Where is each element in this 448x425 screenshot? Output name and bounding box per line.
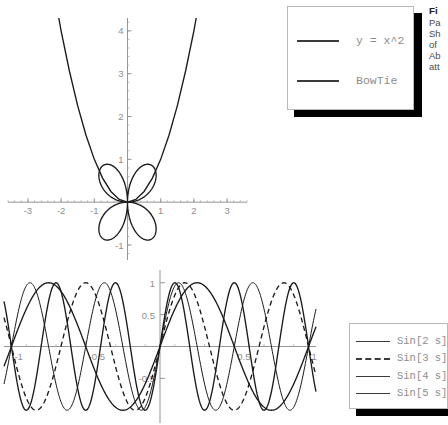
screenshot-canvas: -3-2-1123-11234 y = x^2 BowTie -1-0.50.5… bbox=[0, 0, 448, 425]
legend-swatch-sin3 bbox=[356, 358, 390, 359]
svg-text:-3: -3 bbox=[24, 205, 32, 216]
plot-parabola-bowtie-canvas: -3-2-1123-11234 bbox=[0, 14, 255, 264]
svg-text:2: 2 bbox=[118, 111, 123, 122]
legend-swatch-sin5 bbox=[356, 393, 390, 394]
svg-text:3: 3 bbox=[118, 68, 123, 79]
svg-text:2: 2 bbox=[191, 205, 196, 216]
legend-label-sin2: Sin[2 s] bbox=[397, 335, 447, 347]
svg-text:3: 3 bbox=[224, 205, 229, 216]
caption-title: Fi bbox=[429, 5, 448, 17]
caption-line-5: att bbox=[429, 61, 448, 72]
plot-sin-family-canvas: -1-0.50.51-0.50.51 bbox=[0, 268, 320, 425]
plot-parabola-bowtie: -3-2-1123-11234 bbox=[0, 14, 255, 264]
legend-entry-sin3: Sin[3 s] bbox=[350, 350, 447, 368]
legend-sin-family: Sin[2 s] Sin[3 s] Sin[4 s] Sin[5 s] bbox=[349, 323, 448, 409]
caption-column: Fi Pa Sh of Ab att bbox=[429, 5, 448, 73]
svg-text:1: 1 bbox=[118, 154, 123, 165]
plot-sin-family: -1-0.50.51-0.50.51 bbox=[0, 268, 320, 425]
legend-label-sin3: Sin[3 s] bbox=[397, 352, 447, 364]
legend-swatch-sin4 bbox=[356, 375, 390, 376]
legend-entry-parabola: y = x^2 bbox=[288, 20, 413, 60]
legend-parabola-bowtie: y = x^2 BowTie bbox=[287, 6, 414, 110]
legend-label-sin4: Sin[4 s] bbox=[397, 370, 447, 382]
legend-swatch-sin2 bbox=[356, 340, 390, 341]
caption-line-1: Pa bbox=[429, 17, 448, 28]
svg-text:-1: -1 bbox=[115, 240, 123, 251]
legend-label-bowtie: BowTie bbox=[356, 74, 397, 87]
caption-line-2: Sh bbox=[429, 28, 448, 39]
svg-text:-1: -1 bbox=[90, 205, 98, 216]
legend-entry-sin5: Sin[5 s] bbox=[350, 385, 447, 403]
svg-text:-2: -2 bbox=[57, 205, 65, 216]
svg-text:1: 1 bbox=[150, 278, 155, 289]
svg-text:0.5: 0.5 bbox=[142, 310, 155, 321]
caption-line-3: of bbox=[429, 39, 448, 50]
legend-entry-sin4: Sin[4 s] bbox=[350, 367, 447, 385]
svg-text:-1: -1 bbox=[14, 351, 22, 362]
legend-label-sin5: Sin[5 s] bbox=[397, 387, 447, 399]
legend-entry-sin2: Sin[2 s] bbox=[350, 332, 447, 350]
svg-text:4: 4 bbox=[118, 25, 123, 36]
svg-text:1: 1 bbox=[158, 205, 163, 216]
caption-line-4: Ab bbox=[429, 50, 448, 61]
legend-swatch-bowtie bbox=[297, 80, 339, 81]
legend-entry-bowtie: BowTie bbox=[288, 60, 413, 100]
legend-swatch-parabola bbox=[297, 40, 339, 41]
legend-label-parabola: y = x^2 bbox=[356, 34, 404, 47]
